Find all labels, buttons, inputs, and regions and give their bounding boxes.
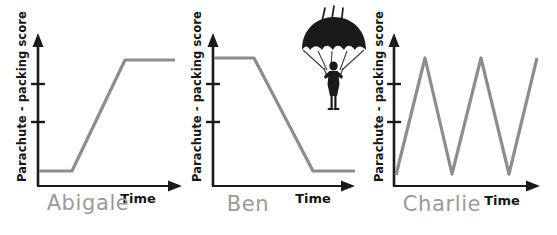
chart-panel-charlie: Parachute - packing score Time Charlie: [372, 0, 557, 235]
ben-y-axis: [206, 33, 220, 186]
charlie-x-axis: [393, 181, 540, 192]
charlie-data-line: [396, 58, 537, 175]
ben-name-label: Ben: [227, 192, 269, 216]
chart-panel-abigale: Parachute - packing score Time Abigale: [0, 0, 190, 235]
abigale-chart-svg: Parachute - packing score Time Abigale: [0, 0, 190, 235]
abigale-y-axis-label: Parachute - packing score: [15, 11, 29, 182]
parachute-packing-score-figure: Parachute - packing score Time Abigale: [0, 0, 557, 235]
ben-y-axis-label: Parachute - packing score: [190, 11, 204, 182]
parachute-canopy-icon: [302, 17, 366, 50]
abigale-data-line: [39, 60, 175, 171]
charlie-chart-svg: Parachute - packing score Time Charlie: [372, 0, 557, 235]
abigale-name-label: Abigale: [47, 191, 130, 215]
abigale-x-axis: [37, 181, 182, 192]
abigale-y-axis: [31, 33, 45, 186]
charlie-x-axis-label: Time: [484, 193, 520, 208]
parachutist-illustration: [296, 4, 376, 116]
charlie-name-label: Charlie: [403, 192, 481, 216]
ben-x-axis: [212, 181, 355, 192]
ben-x-axis-label: Time: [295, 191, 331, 206]
